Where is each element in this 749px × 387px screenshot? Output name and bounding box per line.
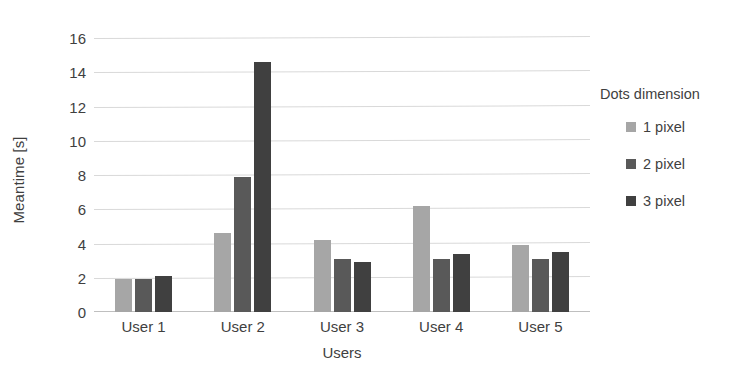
bar[interactable] — [314, 240, 331, 312]
legend-label: 3 pixel — [643, 193, 685, 209]
y-axis-tick-label: 16 — [52, 31, 86, 46]
y-axis-tick-label: 2 — [52, 270, 86, 285]
bar[interactable] — [354, 262, 371, 312]
y-axis-tick-labels: 0246810121416 — [52, 28, 86, 322]
y-axis-tick-label: 14 — [52, 65, 86, 80]
bar-chart: Meantime [s] 0246810121416 User 1User 2U… — [0, 0, 749, 387]
x-axis-tick-labels: User 1User 2User 3User 4User 5 — [94, 318, 590, 335]
y-axis-tick-label: 8 — [52, 168, 86, 183]
bar-group — [392, 38, 491, 312]
y-axis-tick-label: 10 — [52, 133, 86, 148]
y-axis-tick-label: 4 — [52, 236, 86, 251]
legend-item[interactable]: 1 pixel — [626, 119, 745, 135]
y-axis-tick-label: 12 — [52, 99, 86, 114]
legend-item[interactable]: 3 pixel — [626, 193, 745, 209]
legend: Dots dimension 1 pixel2 pixel3 pixel — [600, 86, 745, 230]
bar[interactable] — [234, 177, 251, 312]
x-axis-tick-label-4: User 4 — [392, 318, 491, 335]
y-axis-tick-label: 0 — [52, 305, 86, 320]
y-axis-title: Meantime [s] — [10, 90, 34, 270]
legend-items: 1 pixel2 pixel3 pixel — [600, 119, 745, 209]
bar[interactable] — [532, 259, 549, 312]
x-axis-tick-label-5: User 5 — [491, 318, 590, 335]
bar[interactable] — [155, 276, 172, 312]
bar[interactable] — [413, 206, 430, 312]
legend-item[interactable]: 2 pixel — [626, 156, 745, 172]
legend-swatch-icon — [626, 196, 636, 206]
y-axis-tick-label: 6 — [52, 202, 86, 217]
legend-swatch-icon — [626, 122, 636, 132]
legend-label: 2 pixel — [643, 156, 685, 172]
x-axis-tick-label-2: User 2 — [193, 318, 292, 335]
bar[interactable] — [552, 252, 569, 312]
bar[interactable] — [512, 245, 529, 312]
bar[interactable] — [433, 259, 450, 312]
legend-title: Dots dimension — [600, 86, 745, 102]
bar-group — [193, 38, 292, 312]
legend-label: 1 pixel — [643, 119, 685, 135]
legend-swatch-icon — [626, 159, 636, 169]
bar-group — [292, 38, 391, 312]
bar[interactable] — [334, 259, 351, 312]
x-axis-tick-label-3: User 3 — [292, 318, 391, 335]
bar[interactable] — [115, 279, 132, 312]
bar[interactable] — [214, 233, 231, 312]
bar-group — [94, 38, 193, 312]
plot-area — [94, 38, 590, 312]
bar[interactable] — [254, 62, 271, 312]
x-axis-title: Users — [94, 344, 590, 361]
bar-group — [491, 38, 590, 312]
bar-groups — [94, 38, 590, 312]
bar[interactable] — [453, 254, 470, 312]
bar[interactable] — [135, 279, 152, 312]
x-axis-tick-label-1: User 1 — [94, 318, 193, 335]
